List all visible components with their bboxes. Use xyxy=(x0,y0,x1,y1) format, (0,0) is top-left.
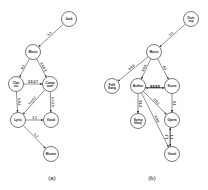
node-label: Song xyxy=(108,86,116,90)
panel-b: 1,10.6,00.6,00,10,0.5,10.5,0.50.5,00.5,1… xyxy=(105,12,199,162)
edge-label: 0,1 xyxy=(162,65,168,71)
node-composer: Composer xyxy=(43,77,58,92)
edge-music-classic: 0,1 xyxy=(20,59,30,78)
node-vocal: Vocal xyxy=(44,113,59,128)
caption-a: (a) xyxy=(48,175,55,181)
edge-music-composer: 0.5,0.3 xyxy=(37,59,48,78)
edge-label: 1,1 xyxy=(32,116,37,120)
edge-composer-vocal: 0.7,0.5 xyxy=(50,91,55,112)
edge-label: 0,1 xyxy=(20,64,26,70)
node-outstep: Outstep xyxy=(184,12,199,27)
edge-outstep-music: 1,1 xyxy=(160,24,186,47)
edge-arrow xyxy=(160,24,186,47)
node-label: hony xyxy=(134,121,142,125)
node-label: Mozart xyxy=(46,152,57,156)
node-label: oser xyxy=(47,84,54,88)
node-classic: Classic xyxy=(9,77,24,92)
edge-lyric-mozart: 1,1 xyxy=(23,125,46,148)
node-music: Music xyxy=(26,45,41,60)
edge-label: 0.5,0.5 xyxy=(150,85,160,89)
edge-label: 0.5,1 xyxy=(153,98,161,106)
edge-classic-composer: 0.5,0.7 xyxy=(24,80,43,84)
caption-b: (b) xyxy=(148,175,155,181)
edge-label: 0.5,0.3 xyxy=(39,62,47,73)
edge-label: 1,1 xyxy=(47,31,53,37)
node-label: Vocal xyxy=(168,152,176,156)
node-label: Jack xyxy=(65,17,72,21)
edge-arrow xyxy=(39,24,64,47)
edge-label: 0.5,1 xyxy=(17,98,21,106)
node-label: sic xyxy=(14,84,19,88)
edge-label: 1,1 xyxy=(169,135,173,140)
edge-composer-lyric: 0.5,0.7 xyxy=(23,90,45,115)
edge-label: 1,1 xyxy=(33,132,39,138)
edge-author-score: 0.5,0.5 xyxy=(146,85,165,89)
node-folk: FolkSong xyxy=(105,79,120,94)
node-score: Score xyxy=(165,79,180,94)
node-label: Music xyxy=(149,50,158,54)
edge-label: 0.7,0.5 xyxy=(51,97,55,107)
node-label: Opera xyxy=(167,118,176,122)
panel-a: 1,10,10.5,0.30.5,0.70.5,10.5,0.70.7,0.51… xyxy=(9,12,77,162)
graph-diagram: 1,10,10.5,0.30.5,0.70.5,10.5,0.70.7,0.51… xyxy=(0,0,208,190)
edge-label: 1,1 xyxy=(168,31,174,37)
edge-author-symphony: 0.5,0 xyxy=(138,94,142,114)
edge-music-score: 0,1 xyxy=(158,59,169,80)
node-opera: Opera xyxy=(165,113,180,128)
edge-label: 0.5,0 xyxy=(138,100,142,107)
edge-lyric-vocal: 1,1 xyxy=(26,116,44,120)
node-music: Music xyxy=(147,45,162,60)
node-author: Author xyxy=(131,79,146,94)
node-label: Score xyxy=(168,84,177,88)
edge-label: 1,1 xyxy=(165,135,169,140)
node-label: tep xyxy=(189,19,194,23)
node-mozart: Mozart xyxy=(44,147,59,162)
node-label: Music xyxy=(28,50,37,54)
edge-classic-lyric: 0.5,1 xyxy=(16,91,21,112)
edge-label: 0.5,0.7 xyxy=(28,80,38,84)
edge-label: 0,1 xyxy=(172,101,176,106)
node-lyric: Lyric xyxy=(11,113,26,128)
edge-score-opera: 0,1 xyxy=(172,94,176,113)
edge-jack-music: 1,1 xyxy=(39,24,64,47)
edge-arrow xyxy=(23,90,45,115)
node-vocal: Vocal xyxy=(165,147,180,162)
edge-arrow xyxy=(23,125,46,148)
node-jack: Jack xyxy=(62,12,77,27)
node-label: Vocal xyxy=(47,118,55,122)
node-label: Author xyxy=(133,84,144,88)
node-label: Lyric xyxy=(14,118,22,122)
edge-opera-vocal: 1,1 xyxy=(169,128,173,147)
node-symphony: Symphony xyxy=(131,114,146,129)
